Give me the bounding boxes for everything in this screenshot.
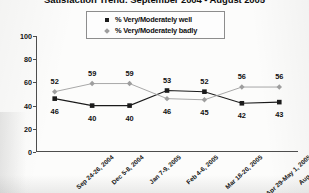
x-axis-tick-label: Dec 5-8, 2004 — [110, 153, 145, 185]
x-axis-tick-label: Mar 18-20, 2005 — [224, 153, 264, 190]
data-label-well: 53 — [163, 75, 171, 84]
data-label-badly: 52 — [51, 76, 59, 85]
legend-label-badly: % Very/Moderately badly — [115, 26, 197, 35]
data-label-badly: 45 — [200, 107, 208, 116]
x-axis-tick-label: Jan 7-9, 2005 — [147, 153, 181, 185]
data-label-badly: 56 — [238, 72, 246, 81]
chart-title: Satisfaction Trend: September 2004 - Aug… — [0, 0, 309, 5]
diamond-marker-icon — [239, 84, 244, 89]
data-label-well: 52 — [200, 76, 208, 85]
y-axis-tick-label: 0 — [28, 148, 32, 157]
diamond-marker-icon — [277, 84, 282, 89]
plot-area: 020406080100 465240594059534652454256435… — [36, 36, 298, 152]
square-marker-icon — [101, 18, 112, 22]
scan-artifact-left — [0, 112, 26, 193]
y-axis-tick-label: 80 — [24, 55, 32, 64]
x-axis-tick-label: Sep 24-26, 2004 — [74, 153, 114, 190]
y-axis-tick-label: 60 — [24, 78, 32, 87]
square-marker-icon — [52, 96, 57, 101]
data-label-badly: 59 — [88, 68, 96, 77]
square-marker-icon — [165, 88, 170, 93]
y-axis-tick-label: 100 — [20, 32, 32, 41]
data-label-well: 40 — [88, 113, 96, 122]
diamond-marker-icon — [202, 97, 207, 102]
legend-item-badly: % Very/Moderately badly — [87, 25, 224, 36]
square-marker-icon — [202, 89, 207, 94]
data-label-badly: 46 — [163, 106, 171, 115]
x-axis: Sep 24-26, 2004Dec 5-8, 2004Jan 7-9, 200… — [36, 152, 298, 193]
legend-item-well: % Very/Moderately well — [87, 14, 224, 25]
y-axis-tick-label: 40 — [24, 101, 32, 110]
square-marker-icon — [90, 103, 95, 108]
data-label-well: 46 — [51, 106, 59, 115]
x-axis-tick-label: Apr 29-May 1, 2005 — [264, 153, 309, 193]
series-layer — [36, 36, 298, 152]
data-label-badly: 56 — [275, 72, 283, 81]
diamond-marker-icon — [127, 81, 132, 86]
square-marker-icon — [277, 100, 282, 105]
square-marker-icon — [240, 101, 245, 106]
data-label-well: 42 — [238, 111, 246, 120]
diamond-marker-icon — [164, 96, 169, 101]
data-label-well: 40 — [125, 113, 133, 122]
chart-legend: % Very/Moderately well % Very/Moderately… — [86, 11, 225, 39]
diamond-marker-icon — [52, 89, 57, 94]
y-axis-tick-label: 20 — [24, 124, 32, 133]
x-axis-tick-label: Feb 4-6, 2005 — [185, 153, 220, 185]
square-marker-icon — [127, 103, 132, 108]
data-label-well: 43 — [275, 110, 283, 119]
data-label-badly: 59 — [125, 68, 133, 77]
diamond-marker-icon — [89, 81, 94, 86]
scanned-page: Satisfaction Trend: September 2004 - Aug… — [0, 0, 309, 193]
diamond-marker-icon — [101, 29, 112, 33]
legend-label-well: % Very/Moderately well — [115, 15, 192, 24]
